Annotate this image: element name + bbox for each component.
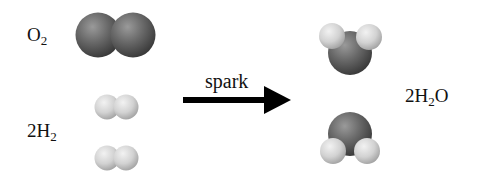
hydrogen-formula-label: 2H2 bbox=[27, 121, 57, 140]
water-formula-label: 2H2O bbox=[405, 86, 448, 105]
hydrogen-atom bbox=[354, 138, 380, 164]
hydrogen-atom bbox=[114, 95, 139, 120]
hydrogen-molecule bbox=[95, 146, 139, 171]
coefficient: 2 bbox=[405, 85, 415, 106]
element-symbol: H bbox=[37, 120, 51, 141]
element-symbol: H bbox=[415, 85, 429, 106]
subscript: 2 bbox=[41, 33, 48, 48]
water-molecule bbox=[320, 112, 380, 164]
arrow-shaft bbox=[183, 97, 267, 103]
hydrogen-atom bbox=[114, 146, 139, 171]
element-symbol: O bbox=[435, 85, 449, 106]
arrow-label: spark bbox=[205, 71, 248, 91]
hydrogen-atom bbox=[319, 23, 345, 49]
element-symbol: O bbox=[27, 24, 41, 45]
hydrogen-atom bbox=[320, 138, 346, 164]
oxygen-atom bbox=[111, 13, 156, 58]
hydrogen-molecule bbox=[95, 95, 139, 120]
water-molecule bbox=[319, 23, 382, 75]
hydrogen-atom bbox=[356, 24, 382, 50]
reaction-diagram: O2 2H2 spark 2H2O bbox=[0, 0, 477, 181]
coefficient: 2 bbox=[27, 120, 37, 141]
oxygen-formula-label: O2 bbox=[27, 25, 47, 44]
arrow-head-icon bbox=[264, 86, 291, 114]
oxygen-molecule bbox=[76, 13, 156, 58]
subscript: 2 bbox=[50, 129, 57, 144]
